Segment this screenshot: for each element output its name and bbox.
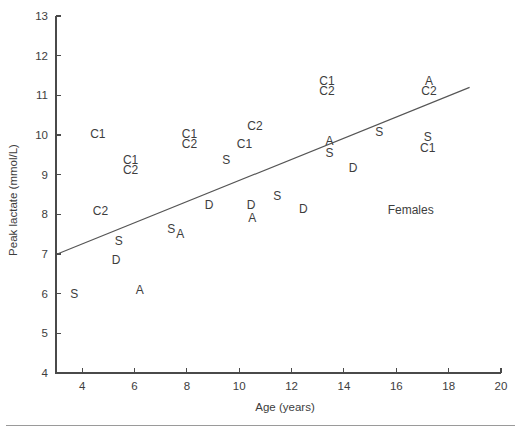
data-point-label: S xyxy=(326,146,334,160)
data-point-label: D xyxy=(349,161,358,175)
x-tick-label: 12 xyxy=(285,380,298,392)
x-tick-label: 4 xyxy=(79,380,86,392)
data-point-label: S xyxy=(273,189,281,203)
group-label: Females xyxy=(388,203,434,217)
data-point-label: C1 xyxy=(90,127,106,141)
data-point-label: D xyxy=(205,198,214,212)
y-tick-label: 9 xyxy=(42,169,48,181)
axis-tick-labels: 45678910111213468101214161820 xyxy=(35,10,507,392)
y-axis-title: Peak lactate (mmol/L) xyxy=(7,144,19,256)
data-point-label: D xyxy=(247,198,256,212)
x-tick-label: 16 xyxy=(390,380,403,392)
x-tick-label: 18 xyxy=(442,380,455,392)
y-tick-label: 10 xyxy=(35,129,48,141)
y-tick-label: 4 xyxy=(42,367,49,379)
data-point-label: C2 xyxy=(421,84,437,98)
x-tick-label: 8 xyxy=(184,380,190,392)
data-point-label: S xyxy=(167,222,175,236)
y-tick-label: 7 xyxy=(42,248,48,260)
data-point-label: C2 xyxy=(182,137,198,151)
x-tick-label: 20 xyxy=(495,380,508,392)
regression-line xyxy=(57,87,469,254)
data-point-label: A xyxy=(248,211,256,225)
x-axis-title: Age (years) xyxy=(255,401,315,413)
y-tick-label: 8 xyxy=(42,208,48,220)
y-tick-label: 13 xyxy=(35,10,48,22)
data-point-label: D xyxy=(112,253,121,267)
scatter-plot-figure: 45678910111213468101214161820 C1C2SDSC1C… xyxy=(0,0,521,436)
data-point-label: C2 xyxy=(123,163,139,177)
chart-canvas: 45678910111213468101214161820 C1C2SDSC1C… xyxy=(0,0,521,436)
x-tick-label: 10 xyxy=(233,380,246,392)
y-tick-label: 6 xyxy=(42,288,48,300)
x-tick-label: 6 xyxy=(131,380,137,392)
data-point-label: S xyxy=(222,153,230,167)
data-point-label: S xyxy=(115,234,123,248)
data-point-label: S xyxy=(70,287,78,301)
footer-divider xyxy=(6,425,515,426)
data-point-label: A xyxy=(176,227,184,241)
y-tick-label: 5 xyxy=(42,327,48,339)
data-point-label: C1 xyxy=(237,137,253,151)
data-points: C1C2SDSC1C2ASAC1C2DSC1C2DASDC1C2ASDSAC2S… xyxy=(70,74,437,301)
regression-line xyxy=(57,87,469,254)
x-tick-label: 14 xyxy=(338,380,351,392)
data-point-label: C2 xyxy=(247,119,263,133)
chart-annotations: Females xyxy=(388,203,434,217)
y-tick-label: 11 xyxy=(36,89,48,101)
data-point-label: A xyxy=(136,283,144,297)
data-point-label: D xyxy=(299,202,308,216)
data-point-label: C2 xyxy=(93,204,109,218)
data-point-label: C1 xyxy=(420,141,436,155)
data-point-label: S xyxy=(375,125,383,139)
y-tick-label: 12 xyxy=(35,50,48,62)
data-point-label: C2 xyxy=(319,84,335,98)
